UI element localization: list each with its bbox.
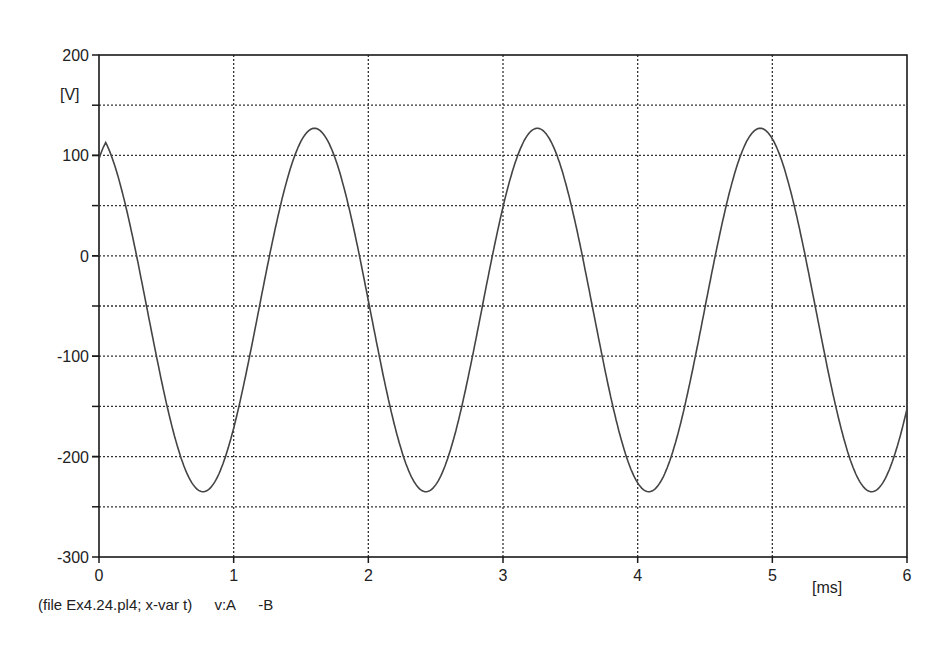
y-tick-label: 200 [62,47,89,64]
plot-area: 2001000-100-200-300 0123456 [0,0,945,646]
x-tick-label: 5 [768,567,777,584]
grid-lines [99,55,907,557]
voltage-trace [99,128,907,491]
y-tick-label: 0 [80,248,89,265]
y-tick-label: -100 [57,348,89,365]
x-axis-labels: 0123456 [95,567,912,584]
y-tick-label: -200 [57,449,89,466]
x-tick-label: 4 [633,567,642,584]
axis-ticks [92,55,907,563]
y-tick-label: -300 [57,549,89,566]
x-tick-label: 2 [364,567,373,584]
x-tick-label: 3 [499,567,508,584]
x-tick-label: 1 [229,567,238,584]
y-axis-labels: 2001000-100-200-300 [57,47,89,566]
file-info: (file Ex4.24.pl4; x-var t) [38,596,192,613]
plot-footer: (file Ex4.24.pl4; x-var t) v:A -B [38,596,291,613]
x-axis-unit: [ms] [812,579,842,597]
y-axis-unit: [V] [60,86,80,104]
variable-name: v:A [214,596,236,613]
reference-node: -B [258,596,273,613]
x-tick-label: 0 [95,567,104,584]
y-tick-label: 100 [62,147,89,164]
x-tick-label: 6 [903,567,912,584]
